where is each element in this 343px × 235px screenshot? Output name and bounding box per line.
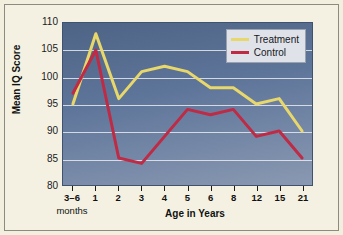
x-axis-tick xyxy=(95,186,96,191)
x-axis-tick-labels: 3–61234568121521 xyxy=(62,192,313,206)
x-axis-tick xyxy=(234,186,235,191)
x-axis-tick xyxy=(188,186,189,191)
y-axis-tick-label: 85 xyxy=(32,154,58,164)
x-axis-tick xyxy=(72,186,73,191)
y-axis-title: Mean IQ Score xyxy=(11,40,22,120)
legend-swatch-control xyxy=(231,51,249,54)
figure-root: Mean IQ Score 80859095100105110 Treatmen… xyxy=(0,0,343,235)
y-axis-tick-label: 90 xyxy=(32,126,58,136)
x-axis-tick xyxy=(118,186,119,191)
x-axis-tick xyxy=(303,186,304,191)
x-axis-title: Age in Years xyxy=(110,208,280,219)
y-axis-tick-label: 110 xyxy=(32,17,58,27)
x-axis-tick xyxy=(211,186,212,191)
y-axis-tick-label: 105 xyxy=(32,44,58,54)
legend-item-treatment: Treatment xyxy=(231,33,299,46)
y-axis-tick-label: 100 xyxy=(32,72,58,82)
legend-label-control: Control xyxy=(254,47,286,58)
legend: Treatment Control xyxy=(226,29,306,63)
legend-item-control: Control xyxy=(231,46,299,59)
legend-label-treatment: Treatment xyxy=(254,34,299,45)
plot-area: Treatment Control xyxy=(62,22,313,186)
x-axis-tick xyxy=(280,186,281,191)
y-axis-tick-labels: 80859095100105110 xyxy=(28,22,58,186)
legend-swatch-treatment xyxy=(231,38,249,41)
x-axis-tick xyxy=(257,186,258,191)
x-axis-tick-label: 21 xyxy=(283,192,323,203)
x-axis-months-label: months xyxy=(44,205,100,216)
y-axis-tick-label: 95 xyxy=(32,99,58,109)
x-axis-tick xyxy=(141,186,142,191)
y-axis-tick-label: 80 xyxy=(32,181,58,191)
x-axis-tick xyxy=(164,186,165,191)
